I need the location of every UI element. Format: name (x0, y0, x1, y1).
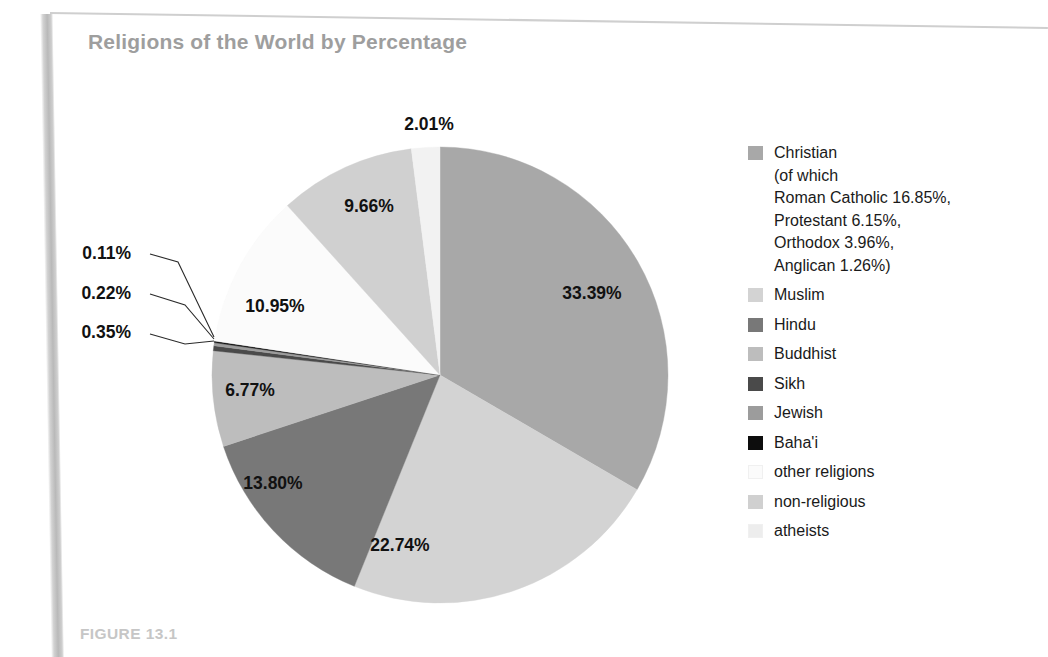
callout-leader-group (150, 254, 214, 344)
figure-page: Religions of the World by Percentage 33.… (0, 0, 1048, 657)
legend-color-swatch (748, 465, 763, 479)
legend-item: Buddhist (748, 343, 1038, 366)
legend-color-swatch (748, 406, 763, 420)
legend-label: Christian (of which Roman Catholic 16.85… (774, 142, 951, 277)
callout-leader-line (150, 334, 214, 344)
legend-item: Baha'i (748, 432, 1038, 455)
legend-item: non-religious (748, 491, 1038, 514)
callout-percent-label: 0.11% (82, 243, 131, 263)
legend-label: non-religious (774, 491, 866, 514)
legend-label: Baha'i (774, 432, 818, 455)
slice-percent-label: 33.39% (562, 283, 622, 303)
legend-label: Jewish (774, 402, 823, 425)
legend-color-swatch (748, 288, 763, 302)
legend-color-swatch (748, 436, 763, 450)
legend-color-swatch (748, 318, 763, 332)
legend-label: other religions (774, 461, 875, 484)
legend-label: Muslim (774, 284, 825, 307)
callout-percent-label: 0.22% (81, 283, 131, 303)
pie-slice-group (212, 147, 668, 603)
legend-color-swatch (748, 146, 763, 160)
slice-percent-label: 10.95% (245, 296, 305, 316)
callout-percent-label: 0.35% (81, 322, 131, 342)
slice-percent-label: 13.80% (243, 473, 303, 493)
legend-color-swatch (748, 524, 763, 538)
legend-item: Christian (of which Roman Catholic 16.85… (748, 142, 1038, 277)
legend-label: Buddhist (774, 343, 836, 366)
legend-item: Muslim (748, 284, 1038, 307)
slice-percent-label: 6.77% (225, 380, 275, 400)
legend-color-swatch (748, 495, 763, 509)
legend-item: other religions (748, 461, 1038, 484)
legend-item: Sikh (748, 373, 1038, 396)
legend-label: atheists (774, 520, 829, 543)
legend-label: Hindu (774, 314, 816, 337)
slice-percent-label: 9.66% (344, 196, 394, 216)
callout-leader-line (150, 254, 214, 337)
chart-legend: Christian (of which Roman Catholic 16.85… (748, 142, 1038, 550)
slice-percent-label: 22.74% (370, 535, 430, 555)
legend-color-swatch (748, 347, 763, 361)
legend-color-swatch (748, 377, 763, 391)
legend-item: Hindu (748, 314, 1038, 337)
legend-item: atheists (748, 520, 1038, 543)
slice-percent-label: 2.01% (404, 114, 454, 134)
legend-item: Jewish (748, 402, 1038, 425)
legend-label: Sikh (774, 373, 805, 396)
figure-caption: FIGURE 13.1 (80, 625, 177, 643)
